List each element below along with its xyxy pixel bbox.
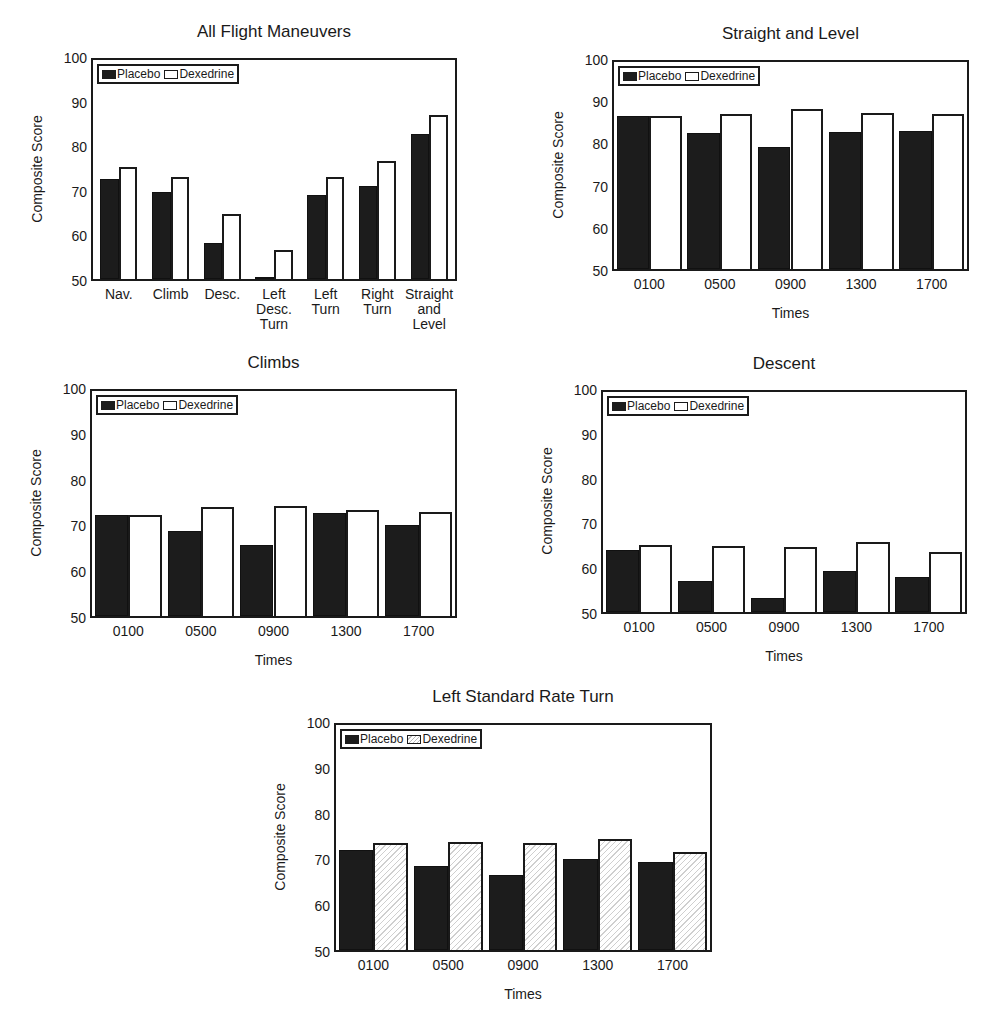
x-tick-label: 1700 <box>913 620 944 635</box>
legend-swatch-dexedrine <box>163 401 177 410</box>
x-tick-label: 1700 <box>657 958 688 973</box>
bar-dexedrine <box>429 115 448 279</box>
legend-item-placebo: Placebo <box>612 399 670 413</box>
bar-dexedrine <box>222 214 241 279</box>
bar-dexedrine <box>274 506 307 616</box>
y-tick-label: 70 <box>294 852 330 868</box>
legend-label-placebo: Placebo <box>116 398 159 412</box>
bar-placebo <box>385 525 418 616</box>
bar-placebo <box>95 515 128 616</box>
y-tick-label: 80 <box>50 473 86 489</box>
legend-swatch-dexedrine <box>674 402 688 411</box>
legend-item-placebo: Placebo <box>623 69 681 83</box>
bar-placebo <box>829 132 861 269</box>
bar-placebo <box>758 147 790 269</box>
x-tick-label: Right Turn <box>361 287 394 317</box>
bar-dexedrine <box>201 507 234 616</box>
y-tick-label: 70 <box>51 184 87 200</box>
x-tick-label: Straight and Level <box>405 287 453 332</box>
y-tick-label: 80 <box>572 136 608 152</box>
y-tick-label: 50 <box>294 944 330 960</box>
bar-placebo <box>204 243 223 279</box>
bar-placebo <box>168 531 201 616</box>
x-tick-label: 0900 <box>768 620 799 635</box>
y-tick-label: 80 <box>294 807 330 823</box>
legend-item-placebo: Placebo <box>101 398 159 412</box>
y-tick-label: 90 <box>50 427 86 443</box>
y-axis-label: Composite Score <box>28 403 44 603</box>
x-tick-label: Nav. <box>105 287 133 302</box>
bar-dexedrine <box>326 177 345 279</box>
x-tick-label: 1700 <box>403 624 434 639</box>
legend-label-dexedrine: Dexedrine <box>179 67 234 81</box>
bar-placebo <box>152 192 171 279</box>
y-tick-label: 50 <box>51 273 87 289</box>
y-tick-label: 60 <box>294 898 330 914</box>
y-tick-label: 90 <box>561 427 597 443</box>
bar-placebo <box>313 513 346 616</box>
x-tick-label: 0900 <box>507 958 538 973</box>
x-tick-label: 0100 <box>634 277 665 292</box>
y-tick-label: 90 <box>51 95 87 111</box>
x-axis-label: Times <box>504 986 542 1002</box>
bar-dexedrine <box>861 113 893 269</box>
legend-swatch-placebo <box>345 735 359 744</box>
x-tick-label: 0100 <box>358 958 389 973</box>
y-tick-label: 50 <box>561 606 597 622</box>
bar-placebo <box>240 545 273 616</box>
y-tick-label: 70 <box>561 516 597 532</box>
y-tick-label: 90 <box>294 761 330 777</box>
legend-label-dexedrine: Dexedrine <box>689 399 744 413</box>
bar-dexedrine <box>119 167 138 279</box>
bar-dexedrine <box>598 839 632 950</box>
bar-placebo <box>678 581 711 612</box>
y-tick-label: 100 <box>294 715 330 731</box>
legend-swatch-dexedrine <box>685 72 699 81</box>
bar-dexedrine <box>649 116 681 269</box>
bar-dexedrine <box>929 552 962 612</box>
bar-dexedrine <box>932 114 964 269</box>
bar-placebo <box>563 859 597 950</box>
legend-item-placebo: Placebo <box>345 732 403 746</box>
x-tick-label: 0100 <box>624 620 655 635</box>
legend-item-dexedrine: Dexedrine <box>164 67 234 81</box>
y-tick-label: 70 <box>50 518 86 534</box>
x-tick-label: 1300 <box>582 958 613 973</box>
legend-swatch-dexedrine <box>164 70 178 79</box>
bar-dexedrine <box>791 109 823 269</box>
bar-dexedrine <box>419 512 452 616</box>
chart-title: Climbs <box>248 353 300 373</box>
y-tick-label: 100 <box>572 52 608 68</box>
bar-dexedrine <box>523 843 557 950</box>
legend-swatch-placebo <box>623 72 637 81</box>
y-tick-label: 70 <box>572 179 608 195</box>
legend: PlaceboDexedrine <box>96 395 238 415</box>
y-tick-label: 50 <box>572 263 608 279</box>
bar-dexedrine <box>673 852 707 950</box>
x-tick-label: 0100 <box>113 624 144 639</box>
x-tick-label: 1300 <box>841 620 872 635</box>
bar-dexedrine <box>274 250 293 279</box>
y-axis-label: Composite Score <box>539 401 555 601</box>
bar-placebo <box>489 875 523 950</box>
bar-dexedrine <box>712 546 745 612</box>
bar-dexedrine <box>128 515 161 616</box>
bar-placebo <box>100 179 119 279</box>
y-tick-label: 50 <box>50 610 86 626</box>
x-axis-label: Times <box>765 648 803 664</box>
bar-placebo <box>638 862 672 950</box>
x-tick-label: 1300 <box>846 277 877 292</box>
legend: PlaceboDexedrine <box>618 66 760 86</box>
bar-dexedrine <box>639 545 672 612</box>
bar-placebo <box>414 866 448 950</box>
x-tick-label: Climb <box>153 287 189 302</box>
y-tick-label: 80 <box>561 472 597 488</box>
plot-area: PlaceboDexedrine <box>91 58 457 281</box>
y-tick-label: 100 <box>50 381 86 397</box>
y-tick-label: 80 <box>51 139 87 155</box>
x-tick-label: 0500 <box>433 958 464 973</box>
x-tick-label: 0500 <box>704 277 735 292</box>
legend-item-dexedrine: Dexedrine <box>674 399 744 413</box>
chart-title: Straight and Level <box>722 24 859 44</box>
bar-dexedrine <box>784 547 817 612</box>
